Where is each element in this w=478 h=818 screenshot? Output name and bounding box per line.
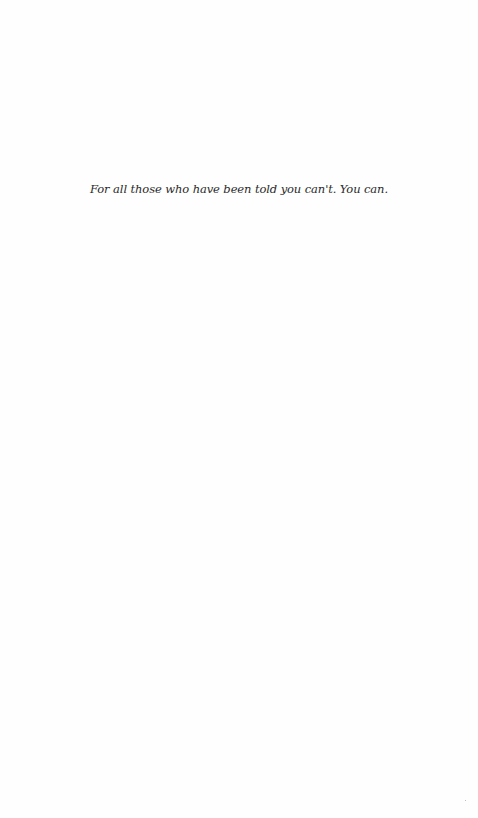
dedication-text: For all those who have been told you can… (0, 181, 478, 197)
book-page: For all those who have been told you can… (0, 0, 478, 818)
scan-artifact (465, 800, 466, 801)
